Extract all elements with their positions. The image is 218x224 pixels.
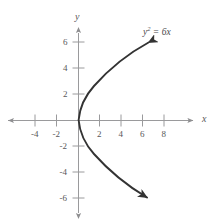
y-tick-label--4: -4 (60, 168, 68, 177)
parabola-figure: -4 -2 2 4 6 8 6 4 2 -2 -4 -6 x y y2 = 6x (0, 0, 218, 224)
x-tick-label-8: 8 (162, 130, 167, 139)
y-tick-label--2: -2 (60, 142, 68, 151)
equation-label: y2 = 6x (143, 26, 171, 38)
y-tick-label--6: -6 (60, 194, 68, 203)
x-tick-label--4: -4 (31, 130, 39, 139)
x-tick-label-6: 6 (140, 130, 145, 139)
x-tick-label-4: 4 (119, 130, 124, 139)
plot-canvas (0, 0, 218, 224)
y-tick-label-4: 4 (63, 64, 68, 73)
equation-rest: = 6x (150, 27, 170, 37)
x-axis-label: x (202, 114, 206, 124)
x-axis (8, 115, 193, 127)
y-tick-label-6: 6 (63, 38, 68, 47)
y-tick-label-2: 2 (63, 90, 68, 99)
y-axis-label: y (75, 12, 79, 22)
x-tick-label-2: 2 (97, 130, 102, 139)
x-tick-label--2: -2 (53, 130, 61, 139)
